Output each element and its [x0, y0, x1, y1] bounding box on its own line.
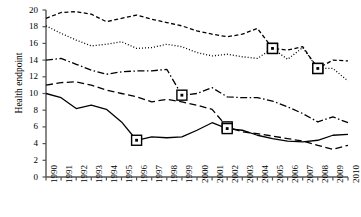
- x-tick-label: 2004: [261, 165, 270, 183]
- x-tick-label: 2000: [201, 165, 210, 183]
- y-tick-label: 12: [16, 72, 38, 81]
- x-tick-label: 2006: [291, 165, 300, 183]
- y-tick-label: 18: [16, 22, 38, 31]
- x-tick-label: 2008: [321, 165, 330, 183]
- x-tick-label: 1996: [140, 165, 149, 183]
- x-tick-label: 1999: [185, 165, 194, 183]
- data-series-layer: [46, 12, 348, 150]
- data-point-marker-center: [181, 94, 184, 97]
- x-tick-label: 1993: [95, 165, 104, 183]
- x-axis-ticks: [46, 177, 348, 181]
- y-tick-label: 4: [16, 139, 38, 148]
- x-tick-label: 2005: [276, 165, 285, 183]
- series-line-dotted: [46, 26, 348, 81]
- y-tick-label: 16: [16, 39, 38, 48]
- x-tick-label: 2007: [306, 165, 315, 183]
- y-tick-label: 6: [16, 122, 38, 131]
- series-line-long-dash: [46, 82, 348, 150]
- data-point-marker-center: [271, 47, 274, 50]
- x-tick-label: 1991: [65, 165, 74, 183]
- series-line-dash-dot: [46, 58, 348, 122]
- y-tick-label: 8: [16, 106, 38, 115]
- x-tick-label: 2009: [336, 165, 345, 183]
- x-tick-label: 1995: [125, 165, 134, 183]
- x-tick-label: 1992: [80, 165, 89, 183]
- x-tick-label: 1997: [155, 165, 164, 183]
- data-point-marker-center: [226, 127, 229, 130]
- axis-lines: [46, 10, 348, 177]
- data-markers-layer: [132, 43, 323, 145]
- data-point-marker-center: [316, 67, 319, 70]
- data-point-marker-center: [135, 139, 138, 142]
- x-tick-label: 2001: [216, 165, 225, 183]
- y-tick-label: 20: [16, 6, 38, 15]
- y-tick-label: 14: [16, 56, 38, 65]
- y-tick-label: 2: [16, 156, 38, 165]
- x-tick-label: 1998: [170, 165, 179, 183]
- x-tick-label: 2002: [231, 165, 240, 183]
- x-tick-label: 2003: [246, 165, 255, 183]
- y-tick-label: 10: [16, 89, 38, 98]
- series-line-solid: [46, 94, 348, 142]
- y-tick-label: 0: [16, 173, 38, 182]
- x-tick-label: 1990: [50, 165, 59, 183]
- series-line-short-dash: [46, 12, 348, 69]
- x-tick-label: 1994: [110, 165, 119, 183]
- x-tick-label: 2010: [352, 165, 361, 183]
